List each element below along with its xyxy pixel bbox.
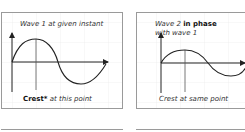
wave2-title: Wave 2 in phase <box>155 20 217 28</box>
wave1-title: Wave 1 at given instant <box>20 20 103 28</box>
wave2-title-line2: with wave 1 <box>155 29 197 37</box>
wave2-caption: Crest at same point <box>159 95 228 103</box>
crest-term: Crest* <box>23 95 48 103</box>
in-phase-term: in phase <box>183 20 216 28</box>
wave2-title-prefix: Wave 2 <box>155 20 183 28</box>
wave1-caption: Crest* at this point <box>23 95 92 103</box>
wave1-caption-rest: at this point <box>48 95 92 103</box>
